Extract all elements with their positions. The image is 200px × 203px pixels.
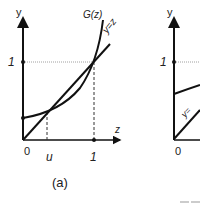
y-tick-1: 1 [8,55,15,69]
caption-a: (a) [52,175,68,190]
figure: y z 1 G(z) y=z 0 u 1 (a) y 1 y= 0 [0,0,200,203]
origin-label-b: 0 [175,145,181,157]
origin-label: 0 [24,145,30,157]
line-label-b: y= [178,105,193,120]
tick-y1-b [172,60,176,64]
curve-g-b [174,85,200,94]
y-axis-label-b: y [167,6,173,18]
panel-b: y 1 y= 0 [160,6,200,202]
y-tick-1-b: 1 [160,55,167,69]
panel-a: y z 1 G(z) y=z 0 u 1 (a) [8,6,120,190]
tick-y1 [21,60,25,64]
x-tick-u: u [46,150,53,164]
y-axis-label: y [16,6,22,18]
line-y-equals-z [23,44,110,140]
curve-label: G(z) [83,9,102,20]
x-axis-label: z [114,124,120,135]
tick-x1 [92,138,96,142]
curve-g [23,20,103,118]
x-tick-1: 1 [90,150,97,164]
